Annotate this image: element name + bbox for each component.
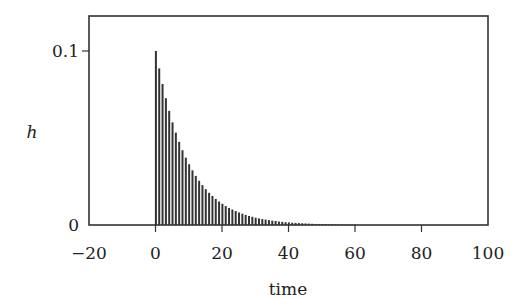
bar bbox=[235, 211, 237, 225]
bar bbox=[158, 68, 160, 225]
bar bbox=[172, 122, 174, 225]
bar bbox=[221, 204, 223, 225]
x-axis-ticks: −20020406080100 bbox=[71, 225, 504, 263]
x-tick-label: 0 bbox=[150, 243, 161, 263]
bar bbox=[182, 150, 184, 225]
y-axis-ticks: 00.1 bbox=[52, 41, 89, 235]
plot-frame bbox=[89, 16, 488, 225]
bar bbox=[208, 193, 210, 225]
bar bbox=[155, 51, 157, 225]
bar bbox=[185, 158, 187, 225]
x-tick-label: 80 bbox=[411, 243, 433, 263]
bar bbox=[218, 202, 220, 225]
bar bbox=[231, 210, 233, 225]
bar bbox=[265, 220, 267, 225]
bar bbox=[162, 84, 164, 225]
bar bbox=[165, 98, 167, 225]
y-tick-label: 0.1 bbox=[52, 41, 79, 61]
x-tick-label: 60 bbox=[344, 243, 366, 263]
x-axis-title: time bbox=[269, 279, 307, 299]
y-axis-title: h bbox=[27, 122, 38, 142]
bar bbox=[215, 199, 217, 225]
bar bbox=[201, 185, 203, 225]
x-tick-label: 40 bbox=[278, 243, 300, 263]
bar bbox=[178, 142, 180, 225]
bar bbox=[245, 215, 247, 225]
bar bbox=[205, 189, 207, 225]
bar bbox=[238, 212, 240, 225]
x-tick-label: −20 bbox=[71, 243, 107, 263]
bar bbox=[188, 164, 190, 225]
x-tick-label: 100 bbox=[472, 243, 504, 263]
bar bbox=[168, 111, 170, 225]
bar bbox=[228, 208, 230, 225]
impulse-response-chart: −20020406080100 00.1 time h bbox=[0, 0, 523, 306]
bar bbox=[241, 214, 243, 225]
bar bbox=[248, 216, 250, 225]
bar bbox=[251, 217, 253, 225]
bar bbox=[195, 176, 197, 225]
bar bbox=[255, 218, 257, 225]
bar bbox=[191, 170, 193, 225]
bar bbox=[175, 133, 177, 225]
bar-series bbox=[155, 51, 357, 225]
bar bbox=[211, 196, 213, 225]
bar bbox=[225, 206, 227, 225]
bar bbox=[258, 218, 260, 225]
y-tick-label: 0 bbox=[68, 215, 79, 235]
bar bbox=[198, 181, 200, 225]
bar bbox=[261, 219, 263, 225]
x-tick-label: 20 bbox=[211, 243, 233, 263]
